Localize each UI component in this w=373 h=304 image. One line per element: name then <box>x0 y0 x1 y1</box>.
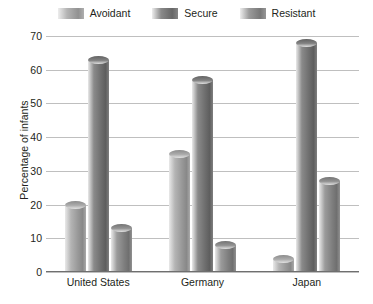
bar-avoidant-japan <box>273 259 294 272</box>
bar-cap <box>88 56 109 64</box>
bar-body <box>111 228 132 272</box>
bar-body <box>192 80 213 272</box>
legend-label-avoidant: Avoidant <box>90 8 131 19</box>
y-tick-label: 40 <box>2 132 42 142</box>
legend-swatch-resistant <box>240 8 266 19</box>
y-tick-label: 0 <box>2 267 42 277</box>
bar-secure-japan <box>296 43 317 272</box>
bar-cap <box>65 201 86 209</box>
bar-chart: Avoidant Secure Resistant Percentage of … <box>0 0 373 304</box>
bar-body <box>169 154 190 272</box>
x-tick-label: United States <box>46 276 150 288</box>
y-tick-label: 20 <box>2 200 42 210</box>
bar-body <box>65 205 86 272</box>
bar-resistant-germany <box>215 245 236 272</box>
bar-resistant-united-states <box>111 228 132 272</box>
bar-cap <box>111 224 132 232</box>
bar-group <box>65 36 132 272</box>
y-tick-label: 70 <box>2 31 42 41</box>
y-axis-ticks: 706050403020100 <box>0 36 42 272</box>
y-tick-label: 60 <box>2 65 42 75</box>
bar-resistant-japan <box>319 181 340 272</box>
bar-group <box>169 36 236 272</box>
chart-legend: Avoidant Secure Resistant <box>0 4 373 22</box>
x-axis-labels: United StatesGermanyJapan <box>46 276 359 296</box>
bar-group <box>273 36 340 272</box>
bar-cap <box>215 241 236 249</box>
bar-body <box>88 60 109 272</box>
bar-body <box>215 245 236 272</box>
legend-label-resistant: Resistant <box>272 8 316 19</box>
legend-swatch-avoidant <box>58 8 84 19</box>
bar-cap <box>169 150 190 158</box>
bar-avoidant-united-states <box>65 205 86 272</box>
legend-item-secure: Secure <box>152 8 217 19</box>
legend-swatch-secure <box>152 8 178 19</box>
y-tick-label: 10 <box>2 233 42 243</box>
bar-secure-germany <box>192 80 213 272</box>
x-tick-label: Japan <box>255 276 359 288</box>
y-tick-label: 30 <box>2 166 42 176</box>
y-tick-label: 50 <box>2 98 42 108</box>
legend-label-secure: Secure <box>184 8 217 19</box>
legend-item-resistant: Resistant <box>240 8 316 19</box>
bar-avoidant-germany <box>169 154 190 272</box>
bar-secure-united-states <box>88 60 109 272</box>
bar-cap <box>192 76 213 84</box>
bar-cap <box>273 255 294 263</box>
legend-item-avoidant: Avoidant <box>58 8 131 19</box>
plot-area <box>46 36 359 272</box>
bar-groups <box>46 36 359 272</box>
bar-cap <box>296 39 317 47</box>
x-axis-line <box>46 271 359 272</box>
gridline <box>46 272 359 273</box>
bar-body <box>319 181 340 272</box>
x-tick-label: Germany <box>150 276 254 288</box>
bar-body <box>296 43 317 272</box>
